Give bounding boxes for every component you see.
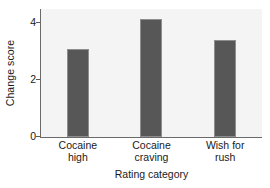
- y-tick-label-0: 0: [22, 131, 36, 141]
- bar-series: [41, 9, 262, 137]
- bar-cocaine-high[interactable]: [67, 49, 89, 137]
- y-axis-tick-labels: 4 2 0: [19, 0, 36, 145]
- x-tick-label-wish-for-rush: Wish for rush: [192, 140, 258, 163]
- plot-area: [41, 9, 262, 137]
- y-tick-label-4: 4: [22, 17, 36, 27]
- x-tick-label-cocaine-high: Cocaine high: [45, 140, 111, 163]
- bar-wish-for-rush[interactable]: [214, 40, 236, 137]
- x-tick-label-cocaine-craving: Cocaine craving: [118, 140, 184, 163]
- x-axis-line: [40, 137, 262, 138]
- bar-cocaine-craving[interactable]: [140, 19, 162, 137]
- x-axis-title: Rating category: [41, 168, 262, 180]
- y-axis-title: Change score: [0, 0, 20, 145]
- bar-chart-figure: Change score 4 2 0 Cocaine high Cocaine …: [0, 0, 270, 188]
- y-axis-title-text: Change score: [4, 39, 16, 106]
- y-tick-label-2: 2: [22, 74, 36, 84]
- x-axis-tick-labels: Cocaine high Cocaine craving Wish for ru…: [41, 140, 262, 166]
